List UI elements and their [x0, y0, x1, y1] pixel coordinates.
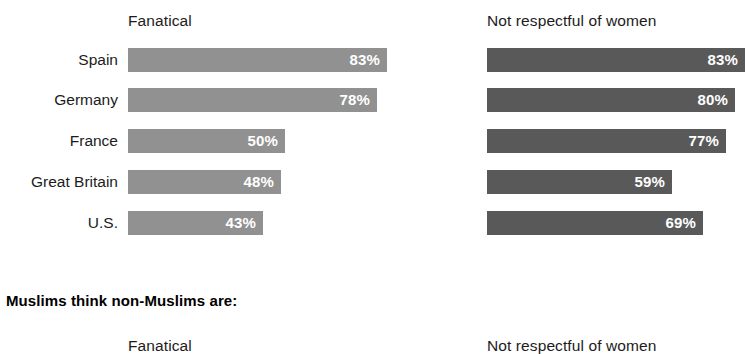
- category-label-spain: Spain: [78, 48, 118, 72]
- panel-header-not-respectful-lower: Not respectful of women: [487, 337, 656, 354]
- bar-not-respectful-france: 77%: [487, 129, 726, 153]
- bar-value-fanatical-france: 50%: [247, 129, 278, 153]
- bar-value-fanatical-us: 43%: [225, 211, 256, 235]
- bar-not-respectful-germany: 80%: [487, 88, 735, 112]
- category-label-us: U.S.: [88, 211, 118, 235]
- bar-fanatical-spain: 83%: [128, 48, 387, 72]
- section-title: Muslims think non-Muslims are:: [6, 292, 237, 309]
- category-label-france: France: [70, 129, 118, 153]
- bar-not-respectful-great-britain: 59%: [487, 170, 672, 194]
- bar-not-respectful-spain: 83%: [487, 48, 745, 72]
- bar-not-respectful-us: 69%: [487, 211, 703, 235]
- bar-value-not-respectful-spain: 83%: [707, 48, 738, 72]
- panel-header-not-respectful: Not respectful of women: [487, 12, 656, 30]
- bar-fanatical-france: 50%: [128, 129, 285, 153]
- bar-value-fanatical-germany: 78%: [339, 88, 370, 112]
- panel-header-fanatical: Fanatical: [128, 12, 192, 30]
- panel-header-fanatical-lower: Fanatical: [128, 337, 192, 354]
- bar-value-not-respectful-germany: 80%: [697, 88, 728, 112]
- bar-fanatical-us: 43%: [128, 211, 263, 235]
- bar-value-fanatical-spain: 83%: [349, 48, 380, 72]
- category-label-great-britain: Great Britain: [31, 170, 118, 194]
- bar-fanatical-great-britain: 48%: [128, 170, 281, 194]
- bar-value-not-respectful-great-britain: 59%: [634, 170, 665, 194]
- bar-fanatical-germany: 78%: [128, 88, 377, 112]
- bar-value-not-respectful-us: 69%: [665, 211, 696, 235]
- category-label-germany: Germany: [54, 88, 118, 112]
- bar-value-fanatical-great-britain: 48%: [243, 170, 274, 194]
- bar-value-not-respectful-france: 77%: [688, 129, 719, 153]
